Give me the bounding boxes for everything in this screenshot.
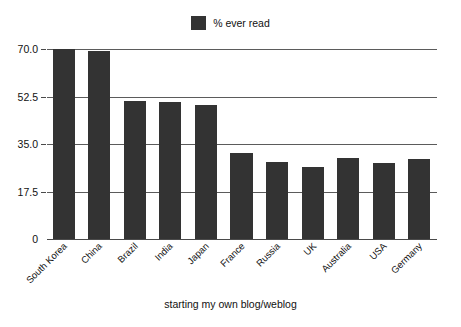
y-axis-tick-labels: 0 17.5 35.0 52.5 70.0: [0, 49, 44, 239]
y-tick-label-17-5: 17.5: [18, 186, 38, 197]
plot-area: [46, 49, 437, 239]
x-tick-label-brazil: Brazil: [116, 241, 140, 265]
x-axis-tick-labels: South KoreaChinaBrazilIndiaJapanFranceRu…: [46, 241, 437, 293]
x-tick-label-russia: Russia: [255, 241, 282, 268]
y-tick-label-0: 0: [32, 234, 38, 245]
x-tick-label-uk: UK: [301, 241, 317, 257]
bar-germany: [408, 159, 430, 239]
legend-swatch-icon: [191, 16, 206, 30]
y-tick-label-35-0: 35.0: [18, 139, 38, 150]
bar-usa: [373, 163, 395, 239]
x-tick-label-usa: USA: [367, 241, 388, 262]
bar-china: [88, 51, 110, 239]
bar-uk: [302, 167, 324, 239]
x-axis-title: starting my own blog/weblog: [0, 299, 461, 310]
bar-russia: [266, 162, 288, 239]
bar-australia: [337, 158, 359, 239]
x-axis-baseline: [46, 239, 437, 240]
bar-france: [230, 153, 252, 239]
legend-item-ever-read: % ever read: [191, 16, 270, 30]
bar-chart: % ever read 0 17.5 35.0 52.5 70.0 South …: [0, 0, 461, 327]
x-tick-label-japan: Japan: [186, 241, 211, 266]
bar-south-korea: [53, 49, 75, 239]
x-tick-label-france: France: [218, 241, 246, 269]
bar-japan: [195, 105, 217, 239]
bar-series-ever-read: [46, 49, 437, 239]
x-tick-label-south-korea: South Korea: [24, 241, 68, 285]
legend-label: % ever read: [213, 18, 270, 29]
y-tick-label-52-5: 52.5: [18, 91, 38, 102]
x-tick-label-china: China: [80, 241, 104, 265]
x-tick-label-australia: Australia: [320, 241, 353, 274]
bar-brazil: [124, 101, 146, 239]
chart-legend: % ever read: [0, 16, 461, 30]
x-tick-label-india: India: [153, 241, 174, 262]
bar-india: [159, 102, 181, 239]
x-tick-label-germany: Germany: [390, 241, 424, 275]
y-tick-label-70-0: 70.0: [18, 44, 38, 55]
